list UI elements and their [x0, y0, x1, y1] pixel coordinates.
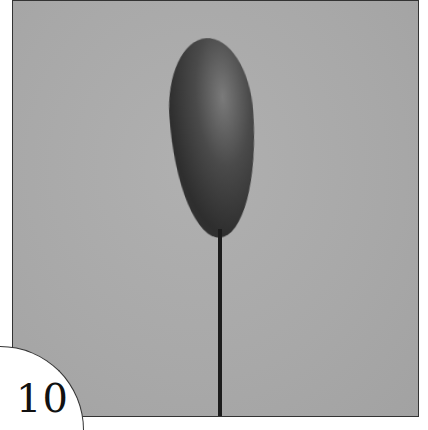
balloon-shape: [164, 35, 262, 240]
photo-frame: [12, 0, 419, 417]
figure-number: 10: [16, 378, 69, 418]
stick: [218, 229, 222, 417]
